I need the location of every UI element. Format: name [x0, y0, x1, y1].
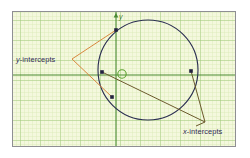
point-x-intercept-right	[189, 69, 193, 73]
point-y-intercept-upper	[114, 28, 118, 32]
callout-label-x-intercepts: x-intercepts	[183, 128, 222, 135]
point-x-intercept-left	[100, 70, 104, 74]
conic-intercepts-figure: y-intercepts x-intercepts y	[0, 0, 250, 158]
callout-label-y-intercepts: y-intercepts	[16, 56, 55, 63]
callout-y-label-rest: -intercepts	[20, 55, 56, 64]
callout-x-label-rest: -intercepts	[187, 127, 223, 136]
point-y-intercept-lower	[110, 95, 114, 99]
y-axis-label: y	[119, 13, 123, 20]
